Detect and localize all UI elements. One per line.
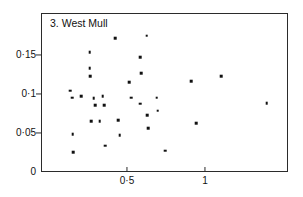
y-axis-tick-mark (36, 93, 41, 94)
y-axis-tick-mark (36, 54, 41, 55)
y-axis-tick-label: 0 (30, 167, 36, 177)
y-axis-tick-label: 0·05 (16, 128, 36, 138)
x-axis-tick-label: 1 (202, 176, 208, 186)
y-axis-tick-label: 0·1 (22, 89, 36, 99)
x-axis-tick-mark (204, 167, 205, 172)
y-axis-tick: 0·15 (0, 50, 36, 60)
y-axis-tick-mark (36, 132, 41, 133)
panel-title: 3. West Mull (50, 17, 108, 29)
y-axis-tick: 0 (0, 167, 36, 177)
y-axis-tick-label: 0·15 (16, 50, 36, 60)
y-axis-tick: 0·1 (0, 89, 36, 99)
y-axis-tick: 0·05 (0, 128, 36, 138)
scatter-plot-figure: 3. West Mull 00·050·10·150·51 (0, 0, 303, 197)
plot-frame (41, 13, 288, 172)
x-axis-tick-label: 0·5 (120, 176, 134, 186)
x-axis-tick-mark (126, 167, 127, 172)
